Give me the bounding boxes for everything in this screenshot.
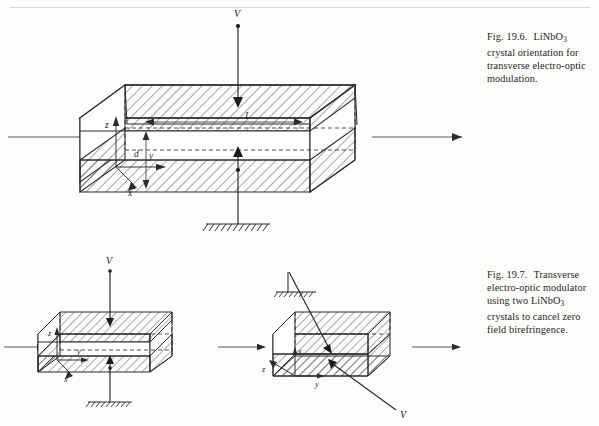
fig197-right-panel: V x y z <box>261 272 461 420</box>
textbook-page: V <box>0 0 599 426</box>
left-voltage-label: V <box>106 255 114 266</box>
crystal-prism <box>80 85 355 192</box>
figure-19-7: V <box>0 250 480 426</box>
right-output-beam-arrow <box>412 344 461 350</box>
left-voltage-lead <box>106 269 114 327</box>
thickness-label: d <box>134 149 139 159</box>
length-label: L <box>244 111 250 121</box>
left-ground-lead <box>106 355 114 402</box>
figure-19-6: V <box>0 0 480 248</box>
axis-label-z: z <box>104 120 109 130</box>
figure-19-7-caption: Fig. 19.7.Transverse electro-optic modul… <box>487 268 597 337</box>
figure-19-6-caption: Fig. 19.6.LiNbO3 crystal orientation for… <box>487 30 595 85</box>
left-ground-symbol <box>86 402 132 407</box>
fig197-left-panel: V <box>4 255 172 407</box>
panel-connector-arrow <box>218 344 266 350</box>
left-axis-label-y: y <box>76 347 81 356</box>
right-axis-label-z: z <box>261 365 266 374</box>
figure-19-7-number: Fig. 19.7. <box>487 269 527 280</box>
right-axis-label-y: y <box>314 380 319 389</box>
ground-symbol <box>203 224 270 231</box>
output-beam-arrow <box>372 133 462 141</box>
figure-19-6-number: Fig. 19.6. <box>487 31 527 42</box>
left-axis-label-x: x <box>63 375 68 384</box>
right-voltage-label: V <box>400 409 408 420</box>
voltage-label-top: V <box>234 8 242 19</box>
right-axis-label-x: x <box>297 347 302 356</box>
axis-label-x: x <box>127 188 133 198</box>
axis-label-y: y <box>148 151 154 161</box>
